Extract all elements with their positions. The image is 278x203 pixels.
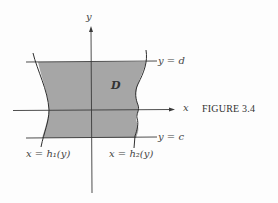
figure-3-4: y x D y = d y = c x = h₁(y) x = h₂(y) FI… bbox=[0, 0, 278, 203]
x-axis-label: x bbox=[183, 103, 189, 113]
y-axis-arrow-icon bbox=[89, 26, 93, 32]
x-axis-arrow-icon bbox=[169, 108, 175, 112]
y-axis bbox=[91, 30, 92, 193]
region-diagram bbox=[0, 0, 278, 203]
top-boundary-label: y = d bbox=[158, 56, 185, 66]
right-boundary-label: x = h₂(y) bbox=[109, 149, 153, 159]
x-axis bbox=[13, 110, 172, 111]
left-boundary-label: x = h₁(y) bbox=[26, 149, 70, 159]
bottom-boundary-label: y = c bbox=[158, 132, 184, 142]
y-axis-label: y bbox=[86, 12, 92, 22]
figure-caption: FIGURE 3.4 bbox=[202, 104, 255, 114]
region-label: D bbox=[111, 80, 121, 91]
